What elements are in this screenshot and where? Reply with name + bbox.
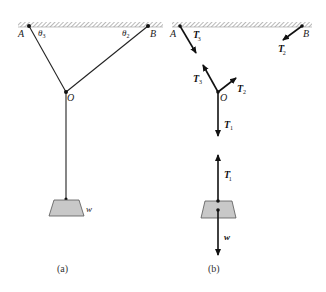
vector-T2-prime bbox=[283, 26, 302, 40]
ceiling-b bbox=[172, 22, 312, 27]
label-O-b: O bbox=[220, 92, 227, 103]
panel-a: A B O θ3 θ2 w (a) bbox=[17, 22, 163, 275]
label-theta3: θ3 bbox=[38, 28, 45, 39]
vector-T3 bbox=[203, 65, 218, 92]
caption-b: (b) bbox=[208, 263, 220, 275]
label-B: B bbox=[150, 28, 156, 39]
weight-center-dot bbox=[216, 208, 220, 212]
label-A: A bbox=[17, 28, 25, 39]
weight-top-dot bbox=[216, 199, 220, 203]
label-T2: T2 bbox=[237, 83, 246, 95]
weight-block-a bbox=[49, 200, 84, 216]
label-B-b: B bbox=[303, 28, 309, 39]
vector-T2 bbox=[218, 78, 236, 92]
rope-BO bbox=[66, 26, 148, 92]
caption-a: (a) bbox=[57, 263, 68, 275]
ceiling-a bbox=[18, 22, 163, 27]
label-T1: T1 bbox=[224, 119, 233, 131]
point-A-dot bbox=[27, 24, 31, 28]
free-body-diagram-figure: A B O θ3 θ2 w (a) A B O T′3 T′2 T3 T2 bbox=[0, 0, 326, 292]
label-T3: T3 bbox=[193, 73, 202, 85]
label-A-b: A bbox=[169, 28, 177, 39]
panel-b: A B O T′3 T′2 T3 T2 T1 T′1 w (b) bbox=[169, 22, 312, 275]
point-A-dot-b bbox=[178, 24, 182, 28]
label-T2-prime: T′2 bbox=[278, 43, 286, 56]
label-T1-prime: T′1 bbox=[224, 169, 232, 182]
label-O: O bbox=[67, 92, 74, 103]
label-theta2: θ2 bbox=[122, 28, 129, 39]
label-w-b: w bbox=[224, 232, 231, 242]
rope-AO bbox=[29, 26, 66, 92]
label-w: w bbox=[86, 204, 92, 214]
label-T3-prime: T′3 bbox=[193, 29, 201, 42]
